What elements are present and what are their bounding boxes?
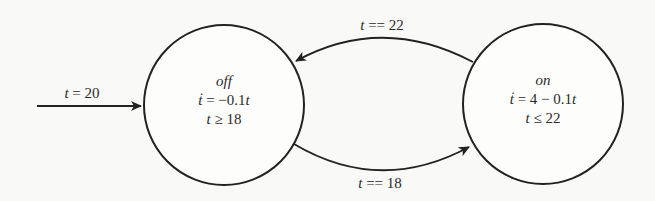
state-on-invariant-rhs: ≤ 22	[530, 110, 561, 126]
state-off-flow-rhs: = −0.1	[202, 92, 245, 108]
state-on-invariant: t ≤ 22	[526, 110, 561, 126]
transition-off-to-on-arrow[interactable]	[294, 144, 469, 170]
initial-label-val: 20	[85, 85, 100, 101]
state-off-invariant-rhs: ≥ 18	[211, 111, 242, 127]
transition-off-to-on-guard: t == 18	[358, 175, 402, 191]
initial-transition: t = 20	[37, 85, 141, 106]
state-on[interactable]: on ṫ = 4 − 0.1t t ≤ 22	[463, 24, 623, 184]
transition-on-to-off-guard-rhs: == 22	[364, 17, 403, 33]
state-off-name: off	[216, 73, 234, 89]
transition-off-to-on-guard-rhs: == 18	[362, 175, 401, 191]
transition-on-to-off-arrow[interactable]	[296, 38, 473, 62]
initial-label: t = 20	[64, 85, 99, 101]
hybrid-automaton-diagram: t = 20 off ṫ = −0.1t t ≥ 18 on ṫ = 4 − 0…	[0, 0, 655, 201]
transition-on-to-off[interactable]: t == 22	[296, 17, 473, 62]
state-off-flow: ṫ = −0.1t	[198, 92, 250, 108]
state-off-invariant: t ≥ 18	[207, 111, 242, 127]
transition-on-to-off-guard: t == 22	[360, 17, 404, 33]
state-on-name: on	[536, 72, 551, 88]
initial-label-op: =	[69, 85, 85, 101]
transition-off-to-on[interactable]: t == 18	[294, 144, 469, 191]
state-on-flow: ṫ = 4 − 0.1t	[510, 91, 577, 107]
state-on-flow-rhs: = 4 − 0.1	[514, 91, 572, 107]
state-off[interactable]: off ṫ = −0.1t t ≥ 18	[144, 25, 304, 185]
